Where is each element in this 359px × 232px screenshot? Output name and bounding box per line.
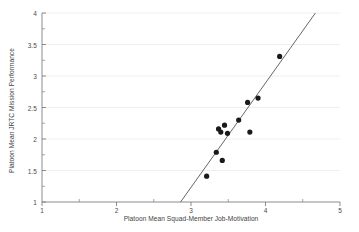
- x-tick-label: 1: [40, 207, 44, 214]
- data-point: [247, 129, 252, 134]
- y-tick-label: 1.5: [21, 167, 37, 174]
- data-point: [277, 54, 282, 59]
- data-point: [236, 118, 241, 123]
- x-tick-label: 4: [264, 207, 268, 214]
- data-point: [218, 129, 223, 134]
- y-tick-label: 4: [21, 10, 37, 17]
- data-point: [214, 150, 219, 155]
- y-tick-label: 2.5: [21, 104, 37, 111]
- y-tick-label: 3.5: [21, 41, 37, 48]
- data-point: [204, 174, 209, 179]
- plot-canvas: [0, 0, 359, 232]
- x-axis-title: Platoon Mean Squad-Member Job-Motivation: [124, 215, 259, 222]
- gridlines-group: [42, 13, 340, 171]
- x-tick-label: 2: [115, 207, 119, 214]
- data-point: [245, 100, 250, 105]
- scatter-plot-figure: 12345 11.522.533.54 Platoon Mean Squad-M…: [0, 0, 359, 232]
- data-point: [222, 123, 227, 128]
- data-point: [225, 131, 230, 136]
- data-point: [255, 95, 260, 100]
- y-axis-title: Platoon Mean JRTC Mission Performance: [8, 48, 15, 173]
- y-tick-label: 1: [21, 199, 37, 206]
- data-point: [220, 158, 225, 163]
- y-tick-label: 2: [21, 136, 37, 143]
- data-points-group: [204, 54, 282, 179]
- x-tick-label: 3: [189, 207, 193, 214]
- y-tick-label: 3: [21, 73, 37, 80]
- x-tick-label: 5: [338, 207, 342, 214]
